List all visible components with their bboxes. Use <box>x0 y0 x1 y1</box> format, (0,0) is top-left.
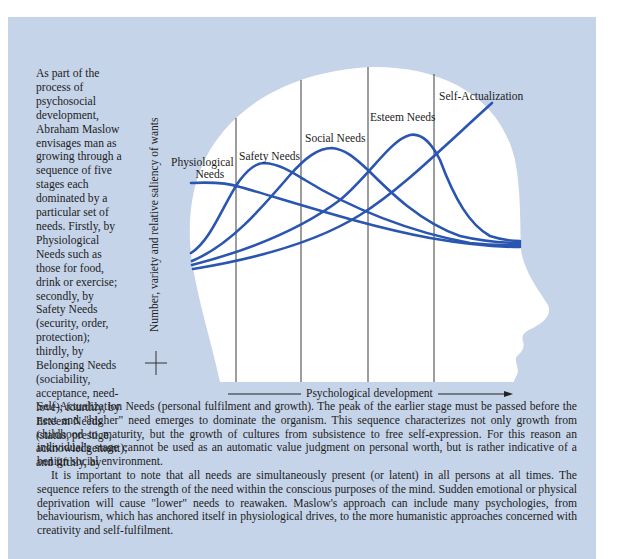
x-axis-label: Psychological development <box>306 387 433 399</box>
side-line: acceptance, need- <box>36 387 161 401</box>
side-line: thirdly, by <box>36 345 161 359</box>
side-line: protection); <box>36 331 161 345</box>
side-line: particular set of <box>36 206 161 220</box>
body-paragraph-1: Self-Actualization Needs (personal fulfi… <box>37 400 577 469</box>
body-paragraph-2: It is important to note that all needs a… <box>37 469 577 538</box>
side-line: (security, order, <box>36 317 161 331</box>
label-social: Social Needs <box>305 132 365 144</box>
side-line: drink or exercise; <box>36 276 161 290</box>
side-line: development, <box>36 109 161 123</box>
label-safety: Safety Needs <box>239 150 300 162</box>
side-line: growing through a <box>36 150 161 164</box>
side-line: process of <box>36 81 161 95</box>
label-physiological: Physiological Needs <box>171 156 234 180</box>
side-line: stages each <box>36 178 161 192</box>
side-line: dominated by a <box>36 192 161 206</box>
side-line: As part of the <box>36 67 161 81</box>
side-line: needs. Firstly, by <box>36 220 161 234</box>
label-esteem: Esteem Needs <box>370 111 435 123</box>
side-line: sequence of five <box>36 164 161 178</box>
side-line: Needs such as <box>36 248 161 262</box>
side-line: psychosocial <box>36 95 161 109</box>
side-line: Abraham Maslow <box>36 123 161 137</box>
label-self-actualization: Self-Actualization <box>439 90 523 102</box>
side-line: those for food, <box>36 262 161 276</box>
body-text: Self-Actualization Needs (personal fulfi… <box>37 400 577 538</box>
side-line: Safety Needs <box>36 303 161 317</box>
side-line: secondly, by <box>36 290 161 304</box>
right-arrow-icon <box>504 391 513 397</box>
side-line: Physiological <box>36 234 161 248</box>
side-line: Belonging Needs <box>36 359 161 373</box>
side-line: envisages man as <box>36 137 161 151</box>
side-line: (sociability, <box>36 373 161 387</box>
